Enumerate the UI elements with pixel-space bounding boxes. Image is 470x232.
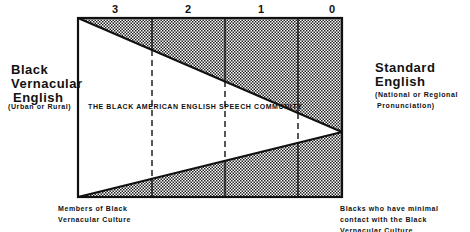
speech-community-diagram — [0, 0, 470, 232]
left-title-line-1: Black — [11, 62, 48, 77]
right-title-line-2: English — [375, 74, 425, 89]
bottom-right-caption-line-1: Blacks who have minimal — [340, 203, 439, 214]
left-subtitle: (Urban or Rural) — [8, 101, 71, 112]
column-label-2: 2 — [185, 3, 191, 15]
center-label: THE BLACK AMERICAN ENGLISH SPEECH COMMUN… — [88, 101, 303, 112]
bottom-right-caption-line-3: Vernacular Culture — [340, 225, 413, 232]
right-title-line-1: Standard — [375, 60, 435, 75]
column-label-0: 0 — [329, 3, 335, 15]
right-subtitle-line-2: Pronunciation) — [377, 100, 435, 111]
bottom-left-caption-line-2: Vernacular Culture — [58, 214, 131, 225]
left-title-line-2: Vernacular — [11, 76, 83, 91]
bottom-left-caption-line-1: Members of Black — [58, 203, 128, 214]
bottom-right-caption-line-2: contact with the Black — [340, 214, 427, 225]
right-subtitle-line-1: (National or Regional — [375, 89, 458, 100]
column-label-3: 3 — [112, 3, 118, 15]
column-label-1: 1 — [258, 3, 264, 15]
